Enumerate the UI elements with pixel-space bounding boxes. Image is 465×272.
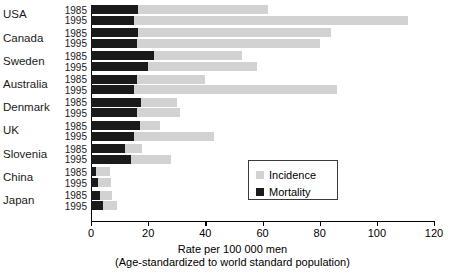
year-label: 1995 xyxy=(61,39,87,49)
bar-mortality xyxy=(91,191,100,200)
bar-row xyxy=(91,132,434,141)
legend-label: Incidence xyxy=(269,169,316,181)
bar-mortality xyxy=(91,62,148,71)
country-label-sweden: Sweden xyxy=(3,56,45,68)
legend-swatch-incidence xyxy=(256,171,264,179)
legend-label: Mortality xyxy=(269,186,311,198)
bar-mortality xyxy=(91,98,141,107)
x-axis-sublabel: (Age-standardized to world standard popu… xyxy=(0,256,465,269)
bar-row xyxy=(91,108,434,117)
bar-row xyxy=(91,5,434,14)
x-tick-label: 80 xyxy=(300,228,340,239)
country-label-slovenia: Slovenia xyxy=(3,149,47,161)
bar-row xyxy=(91,28,434,37)
bar-mortality xyxy=(91,155,131,164)
country-label-canada: Canada xyxy=(3,33,43,45)
year-label: 1995 xyxy=(61,132,87,142)
bar-row xyxy=(91,144,434,153)
year-label: 1985 xyxy=(61,168,87,178)
country-label-usa: USA xyxy=(3,9,27,21)
x-axis-label: Rate per 100 000 men xyxy=(0,243,465,256)
x-tick-label: 20 xyxy=(128,228,168,239)
bar-row xyxy=(91,62,434,71)
x-tick xyxy=(263,221,264,226)
year-label: 1985 xyxy=(61,122,87,132)
x-tick-label: 120 xyxy=(414,228,454,239)
bar-row xyxy=(91,39,434,48)
bar-mortality xyxy=(91,108,137,117)
bar-mortality xyxy=(91,167,96,176)
bar-mortality xyxy=(91,144,125,153)
year-label: 1995 xyxy=(61,202,87,212)
bar-mortality xyxy=(91,5,138,14)
year-label: 1985 xyxy=(61,145,87,155)
country-label-uk: UK xyxy=(3,125,19,137)
x-tick-label: 0 xyxy=(71,228,111,239)
bar-row xyxy=(91,201,434,210)
year-label: 1985 xyxy=(61,6,87,16)
legend-swatch-mortality xyxy=(256,188,264,196)
x-tick-label: 40 xyxy=(185,228,225,239)
bar-incidence xyxy=(91,16,408,25)
x-tick xyxy=(377,221,378,226)
x-tick-label: 100 xyxy=(357,228,397,239)
bar-mortality xyxy=(91,39,137,48)
bar-row xyxy=(91,121,434,130)
year-label: 1985 xyxy=(61,75,87,85)
year-label: 1985 xyxy=(61,52,87,62)
year-label: 1985 xyxy=(61,29,87,39)
year-label: 1995 xyxy=(61,179,87,189)
bar-row xyxy=(91,98,434,107)
country-label-denmark: Denmark xyxy=(3,102,50,114)
bar-mortality xyxy=(91,85,134,94)
country-label-japan: Japan xyxy=(3,195,34,207)
year-label: 1995 xyxy=(61,86,87,96)
bar-row xyxy=(91,85,434,94)
bar-mortality xyxy=(91,201,103,210)
x-tick xyxy=(205,221,206,226)
year-label: 1995 xyxy=(61,155,87,165)
bar-row xyxy=(91,51,434,60)
x-tick xyxy=(148,221,149,226)
country-label-china: China xyxy=(3,172,33,184)
bar-mortality xyxy=(91,28,138,37)
bar-mortality xyxy=(91,75,137,84)
bar-mortality xyxy=(91,178,98,187)
bar-mortality xyxy=(91,132,134,141)
year-label: 1995 xyxy=(61,16,87,26)
x-tick-label: 60 xyxy=(243,228,283,239)
chart-legend: IncidenceMortality xyxy=(248,160,338,200)
year-label: 1985 xyxy=(61,191,87,201)
year-label: 1995 xyxy=(61,109,87,119)
bar-mortality xyxy=(91,51,154,60)
x-tick xyxy=(320,221,321,226)
bar-row xyxy=(91,16,434,25)
country-label-australia: Australia xyxy=(3,79,48,91)
bar-mortality xyxy=(91,16,134,25)
year-label: 1995 xyxy=(61,63,87,73)
x-tick xyxy=(434,221,435,226)
year-label: 1985 xyxy=(61,98,87,108)
x-tick xyxy=(91,221,92,226)
bar-mortality xyxy=(91,121,140,130)
bar-row xyxy=(91,75,434,84)
bar-chart: USA19851995Canada19851995Sweden19851995A… xyxy=(0,0,465,272)
